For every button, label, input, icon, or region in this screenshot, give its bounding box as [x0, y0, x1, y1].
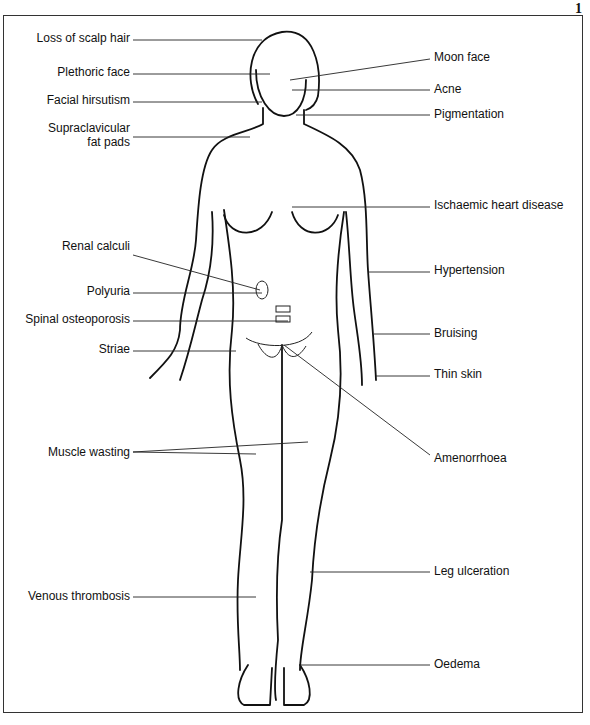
- hair-outline: [250, 32, 319, 110]
- label-leg-ulceration: Leg ulceration: [434, 565, 509, 578]
- left-torso: [224, 210, 243, 670]
- left-neck-shoulder: [150, 108, 263, 378]
- label-supraclavicular: Supraclavicular: [0, 122, 130, 135]
- label-polyuria: Polyuria: [0, 285, 130, 298]
- leg-divide: [275, 345, 282, 700]
- label-ischaemic-heart-disease: Ischaemic heart disease: [434, 199, 563, 212]
- right-inner-arm: [346, 212, 362, 385]
- label-thin-skin: Thin skin: [434, 368, 482, 381]
- label-bruising: Bruising: [434, 327, 477, 340]
- label-facial-hirsutism: Facial hirsutism: [0, 94, 130, 107]
- vertebra-icon: [276, 306, 290, 312]
- label-fat-pads: fat pads: [0, 136, 130, 149]
- left-breast: [224, 212, 272, 233]
- left-foot: [238, 665, 272, 705]
- label-renal-calculi: Renal calculi: [0, 240, 130, 253]
- label-venous-thrombosis: Venous thrombosis: [0, 590, 130, 603]
- label-moon-face: Moon face: [434, 51, 490, 64]
- label-pigmentation: Pigmentation: [434, 108, 504, 121]
- kidney-icon: [256, 281, 268, 299]
- body-outline: [150, 32, 376, 705]
- label-oedema: Oedema: [434, 658, 480, 671]
- label-loss-of-scalp-hair: Loss of scalp hair: [0, 32, 130, 45]
- label-acne: Acne: [434, 83, 461, 96]
- label-muscle-wasting: Muscle wasting: [0, 446, 130, 459]
- right-foot: [284, 665, 310, 705]
- pubic-area: [246, 332, 312, 357]
- label-hypertension: Hypertension: [434, 264, 505, 277]
- right-torso: [300, 212, 344, 670]
- label-amenorrhoea: Amenorrhoea: [434, 452, 507, 465]
- right-breast: [292, 212, 338, 233]
- label-striae: Striae: [0, 343, 130, 356]
- label-plethoric-face: Plethoric face: [0, 66, 130, 79]
- label-spinal-osteoporosis: Spinal osteoporosis: [0, 313, 130, 326]
